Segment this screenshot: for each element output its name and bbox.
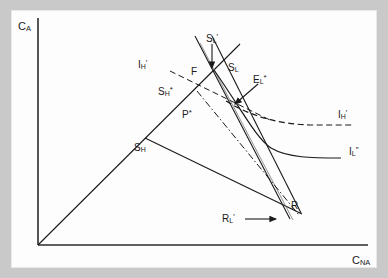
figure-frame: CA CNA SL′ SL EL* IH′ SH* F P* SH IH′ IL… [0,0,388,278]
label-ih-prime-right: IH′ [338,109,347,120]
label-sl: SL [228,63,239,73]
budget-line-sl-prime [195,36,290,219]
curve-il-double-prime [214,70,341,158]
budget-line-sl [212,36,301,213]
line-sh-to-r [145,138,302,214]
label-sh-star: SH* [158,86,173,97]
label-sh: SH [134,143,146,153]
label-r: R [291,201,298,211]
label-rl-prime: RL′ [222,213,235,224]
label-el-star: EL* [253,74,267,85]
diagram-canvas [0,0,388,278]
y-axis-label: CA [18,21,31,33]
arrow-el-star [235,84,258,104]
label-ih-prime-left: IH′ [138,59,147,70]
label-p-star: P* [182,109,192,120]
label-f: F [191,67,197,77]
label-sl-prime: SL′ [206,33,218,44]
budget-line-sl-prime-inner [200,43,293,220]
x-axis-label: CNA [352,255,370,267]
label-il-double-prime: IL″ [349,146,359,157]
curve-ih-prime [226,101,352,125]
